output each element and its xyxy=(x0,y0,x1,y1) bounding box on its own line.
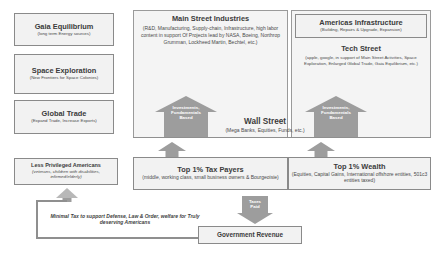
wealth-title: Top 1% Wealth xyxy=(334,163,386,171)
tax-payers-title: Top 1% Tax Payers xyxy=(177,166,243,174)
box-main-street-industries[interactable]: Main Street Industries (R&D, Manufacturi… xyxy=(137,14,284,90)
minimal-tax-note: Minimal Tax to support Defense, Law & Or… xyxy=(50,213,200,226)
americas-infrastructure-title: Americas Infrastructure xyxy=(319,19,402,27)
box-top-1pct-wealth[interactable]: Top 1% Wealth (Equities, Capital Gains, … xyxy=(288,157,431,190)
taxpayers-to-wallstreet-arrow xyxy=(158,142,186,158)
americas-infrastructure-sub: (Building, Repairs & Upgrade, Expansion) xyxy=(320,28,401,33)
revenue-connector-horizontal xyxy=(36,237,198,239)
box-space-sub: (New Frontiers for Space Colonies) xyxy=(30,76,99,81)
wall-street-sub: (Mega Banks, Equities, Funds, etc.) xyxy=(225,127,304,133)
less-privileged-sub: (veterans, children with disabilities, i… xyxy=(17,170,115,180)
revenue-connector-vertical xyxy=(36,200,38,238)
taxes-paid-shaft xyxy=(242,196,268,213)
wealth-sub: (Equities, Capital Gains, International … xyxy=(291,172,428,183)
taxpayers-arrow-head xyxy=(158,142,186,151)
investments-arrow-left-head xyxy=(155,96,217,112)
diagram-canvas: Gaia Equilibrium (long term Energy sourc… xyxy=(0,0,438,259)
tech-street-sub: (apple, google, in support of Main Stree… xyxy=(295,55,427,67)
box-gaia-equilibrium[interactable]: Gaia Equilibrium (long term Energy sourc… xyxy=(14,13,114,46)
box-space-title: Space Exploration xyxy=(32,67,96,75)
box-space-exploration[interactable]: Space Exploration (New Frontiers for Spa… xyxy=(14,54,114,94)
revenue-connector-top xyxy=(36,200,67,202)
tech-street-title: Tech Street xyxy=(341,44,381,53)
box-americas-infrastructure[interactable]: Americas Infrastructure (Building, Repai… xyxy=(295,14,427,38)
box-less-privileged-americans[interactable]: Less Privileged Americans (veterans, chi… xyxy=(14,158,118,185)
revenue-to-less-privileged-head xyxy=(56,188,78,198)
wall-street-baseline xyxy=(133,137,431,138)
box-global-trade-sub: (Expand Trade, Increase Exports) xyxy=(31,119,97,124)
box-government-revenue[interactable]: Government Revenue xyxy=(198,226,302,244)
box-global-trade[interactable]: Global Trade (Expand Trade, Increase Exp… xyxy=(14,100,114,134)
wall-street-title: Wall Street xyxy=(244,117,286,126)
investments-arrow-left-shaft xyxy=(164,112,208,138)
main-street-sub: (R&D, Manufacturing, Supply-chain, Infra… xyxy=(137,25,284,45)
box-global-trade-title: Global Trade xyxy=(42,110,87,118)
wealth-to-wallstreet-arrow xyxy=(307,142,335,158)
box-gaia-sub: (long term Energy sources) xyxy=(38,32,91,37)
taxes-paid-head xyxy=(237,213,273,224)
taxes-paid-arrow xyxy=(237,196,273,224)
main-street-title: Main Street Industries xyxy=(172,14,249,23)
box-tech-street[interactable]: Tech Street (apple, google, in support o… xyxy=(295,44,427,90)
government-revenue-label: Government Revenue xyxy=(217,232,283,239)
box-gaia-title: Gaia Equilibrium xyxy=(35,23,94,31)
investments-arrow-right-head xyxy=(305,96,367,112)
wealth-arrow-head xyxy=(307,142,335,151)
tax-payers-sub: (middle, working class, small business o… xyxy=(142,175,278,181)
box-top-1pct-tax-payers[interactable]: Top 1% Tax Payers (middle, working class… xyxy=(133,157,288,190)
